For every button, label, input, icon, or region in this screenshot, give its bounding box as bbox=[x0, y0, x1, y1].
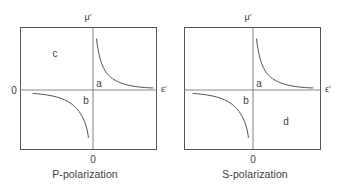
region-label-a: a bbox=[96, 78, 102, 89]
x-axis-label: ε′ bbox=[161, 84, 167, 94]
panel-s-polarization: μ′ ε′ 0 a b d S-polarization bbox=[170, 0, 340, 194]
curve-upper-right-hyperbola bbox=[97, 39, 154, 88]
region-label-c: c bbox=[53, 48, 58, 59]
region-label-b: b bbox=[83, 95, 89, 106]
panel-p-polarization: μ′ ε′ 0 0 a b c P-polarization bbox=[0, 0, 170, 194]
y-axis-label: μ′ bbox=[85, 12, 92, 22]
x-origin-label: 0 bbox=[90, 154, 96, 165]
x-origin-label: 0 bbox=[250, 154, 256, 165]
curve-lower-left-hyperbola bbox=[33, 94, 88, 138]
y-origin-label: 0 bbox=[11, 85, 17, 96]
region-label-b: b bbox=[243, 95, 249, 106]
region-label-d: d bbox=[283, 116, 289, 127]
panel-p-plot: μ′ ε′ 0 0 a b c bbox=[0, 0, 170, 194]
curve-upper-right-hyperbola bbox=[257, 39, 314, 88]
y-axis-label: μ′ bbox=[245, 12, 252, 22]
panel-caption-p: P-polarization bbox=[0, 168, 170, 180]
region-label-a: a bbox=[256, 78, 262, 89]
panel-s-plot: μ′ ε′ 0 a b d bbox=[170, 0, 340, 194]
plot-frame bbox=[21, 28, 157, 150]
polarization-figure: μ′ ε′ 0 0 a b c P-polarization μ′ bbox=[0, 0, 340, 194]
curve-lower-left-hyperbola bbox=[193, 94, 248, 138]
x-axis-label: ε′ bbox=[325, 84, 331, 94]
panel-caption-s: S-polarization bbox=[170, 168, 340, 180]
